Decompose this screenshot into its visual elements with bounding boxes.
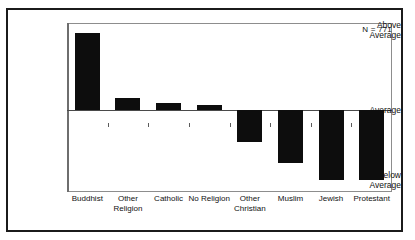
sample-size-annotation: N = 771 <box>362 25 392 34</box>
bar-jewish <box>319 110 344 180</box>
bar-no religion <box>197 105 222 110</box>
x-axis-labels: BuddhistOther ReligionCatholicNo Religio… <box>67 194 392 224</box>
bar-muslim <box>278 110 303 163</box>
bar-catholic <box>156 103 181 110</box>
x-axis-tick <box>189 123 190 127</box>
x-axis-tick <box>148 123 149 127</box>
x-axis-label-protestant: Protestant <box>347 194 396 204</box>
x-axis-tick <box>311 123 312 127</box>
x-axis-tick <box>230 123 231 127</box>
x-axis-tick <box>270 123 271 127</box>
bars-layer <box>67 23 392 192</box>
bar-protestant <box>359 110 384 180</box>
bar-buddhist <box>75 33 100 110</box>
bar-chart: Above Average Average Below Average Budd… <box>8 10 401 230</box>
bar-other-christian <box>237 110 262 142</box>
figure-frame: Above Average Average Below Average Budd… <box>6 8 403 232</box>
x-axis-tick <box>108 123 109 127</box>
cropped-title-remnant <box>0 0 415 7</box>
bar-other-religion <box>115 98 140 110</box>
x-axis-tick <box>351 123 352 127</box>
